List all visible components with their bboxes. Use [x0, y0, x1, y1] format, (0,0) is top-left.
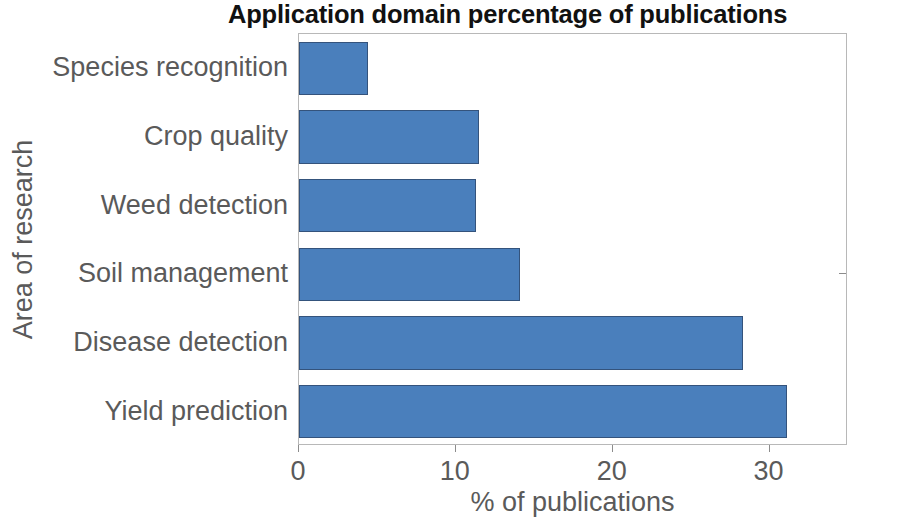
bar: [299, 179, 476, 233]
chart-title: Application domain percentage of publica…: [228, 0, 924, 29]
y-axis-tick-label: Disease detection: [73, 327, 288, 357]
x-axis-tick-label: 0: [290, 455, 305, 487]
y-axis-tick-label: Weed detection: [101, 190, 288, 220]
x-axis-tick-label: 30: [754, 455, 784, 487]
y-axis-tick-label: Yield prediction: [104, 396, 288, 426]
x-axis-title: % of publications: [298, 487, 847, 518]
bar: [299, 110, 479, 164]
bar-chart-figure: Application domain percentage of publica…: [0, 0, 924, 532]
y-axis-tick-labels: Species recognitionCrop qualityWeed dete…: [0, 33, 288, 445]
x-axis-tick-mark: [769, 445, 770, 452]
bar: [299, 316, 743, 370]
x-axis-tick-mark: [298, 445, 299, 452]
x-axis-tick-label: 20: [597, 455, 627, 487]
bar: [299, 42, 368, 96]
plot-area: [298, 33, 847, 445]
x-axis-tick-mark: [612, 445, 613, 452]
bar: [299, 248, 520, 302]
y-axis-tick-label: Species recognition: [52, 52, 288, 82]
bar: [299, 385, 787, 439]
x-axis-ticks: 0102030: [298, 445, 847, 491]
y-axis-right-tick: [839, 273, 846, 274]
x-axis-tick-mark: [455, 445, 456, 452]
x-axis-tick-label: 10: [440, 455, 470, 487]
y-axis-tick-label: Crop quality: [144, 121, 288, 151]
bars-layer: [299, 34, 846, 444]
y-axis-tick-label: Soil management: [78, 258, 288, 288]
